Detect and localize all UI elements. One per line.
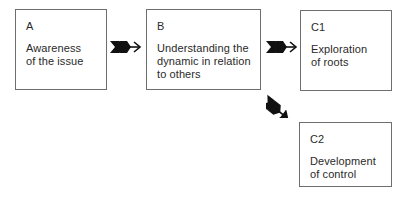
stage-c2-description: Development of control xyxy=(310,155,391,181)
stage-c1-description: Exploration of roots xyxy=(311,43,391,69)
stage-c2-label: C2 xyxy=(310,133,391,146)
fletched-arrow-right-icon xyxy=(110,40,142,54)
fletched-arrow-diagonal-down-right-icon xyxy=(266,92,296,118)
stage-c1-label: C1 xyxy=(311,21,391,34)
stage-b-box: B Understanding the dynamic in relation … xyxy=(146,9,261,90)
stage-b-label: B xyxy=(157,20,260,33)
fletched-arrow-right-icon xyxy=(266,40,298,54)
stage-c2-box: C2 Development of control xyxy=(299,122,392,187)
stage-c1-box: C1 Exploration of roots xyxy=(300,10,392,91)
stage-a-box: A Awareness of the issue xyxy=(15,9,107,90)
stage-b-description: Understanding the dynamic in relation to… xyxy=(157,42,260,81)
stage-a-description: Awareness of the issue xyxy=(26,42,106,68)
stage-a-label: A xyxy=(26,20,106,33)
